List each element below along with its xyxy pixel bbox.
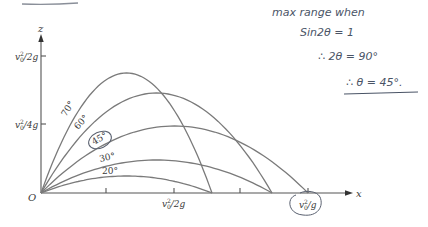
trajectories bbox=[41, 73, 308, 193]
note-line-2: Sin2θ = 1 bbox=[300, 26, 354, 39]
trajectory-20 bbox=[41, 176, 212, 193]
projectile-range-diagram: z x O v02/2g v02/4g v02/2g v02/g 70° 60°… bbox=[0, 0, 428, 227]
note-line-3: ∴ 2θ = 90° bbox=[318, 50, 378, 63]
svg-text:v02/4g: v02/4g bbox=[15, 118, 39, 131]
axes bbox=[38, 34, 353, 196]
angle-label-20: 20° bbox=[102, 166, 118, 176]
note-line-1: max range when bbox=[272, 6, 365, 19]
note-line-4: ∴ θ = 45°. bbox=[346, 76, 402, 89]
svg-text:v02/2g: v02/2g bbox=[15, 50, 39, 63]
heading-underline bbox=[22, 3, 78, 4]
note-underline bbox=[344, 92, 418, 94]
trajectory-30 bbox=[41, 160, 272, 193]
x-tick-label-full: v02/g bbox=[290, 191, 321, 215]
angle-label-45-group: 45° bbox=[86, 128, 115, 153]
z-tick-label-low: v02/4g bbox=[15, 118, 39, 131]
x-axis-arrow-icon bbox=[345, 190, 353, 195]
svg-text:v02/g: v02/g bbox=[299, 198, 317, 211]
x-tick-label-half: v02/2g bbox=[162, 197, 186, 210]
z-axis-label: z bbox=[37, 23, 44, 34]
z-axis-arrow-icon bbox=[38, 34, 43, 42]
svg-text:v02/2g: v02/2g bbox=[162, 197, 186, 210]
trajectory-70 bbox=[41, 73, 212, 193]
x-axis-label: x bbox=[356, 188, 362, 199]
z-tick-label-high: v02/2g bbox=[15, 50, 39, 63]
angle-label-30: 30° bbox=[98, 151, 116, 164]
angle-label-70: 70° bbox=[59, 99, 76, 118]
origin-label: O bbox=[28, 192, 36, 203]
handwritten-notes: max range when Sin2θ = 1 ∴ 2θ = 90° ∴ θ … bbox=[272, 6, 418, 94]
